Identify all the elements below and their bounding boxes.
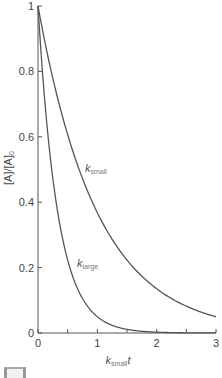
curve-k-large [38, 6, 216, 333]
y-tick-label: 1 [28, 0, 34, 12]
k-small-curve-label: ksmall [85, 162, 107, 175]
curves [38, 6, 216, 333]
x-ticks: 0123 [35, 329, 219, 349]
curve-k-small [38, 6, 216, 317]
decay-chart: 00.20.40.60.81 0123 ksmall klarge [A]/[A… [0, 0, 222, 378]
y-tick-label: 0.2 [19, 262, 34, 274]
y-tick-label: 0 [28, 327, 34, 339]
x-tick-label: 3 [213, 337, 219, 349]
axes [38, 6, 216, 333]
y-tick-label: 0.6 [19, 131, 34, 143]
x-tick-label: 1 [94, 337, 100, 349]
y-ticks: 00.20.40.60.81 [19, 0, 42, 339]
x-tick-label: 0 [35, 337, 41, 349]
y-axis-label: [A]/[A]0 [2, 151, 15, 185]
corner-artifact [4, 367, 26, 378]
k-large-curve-label: klarge [77, 257, 98, 271]
y-tick-label: 0.4 [19, 196, 34, 208]
x-tick-label: 2 [154, 337, 160, 349]
x-axis-label: ksmallt [106, 354, 132, 367]
y-tick-label: 0.8 [19, 65, 34, 77]
